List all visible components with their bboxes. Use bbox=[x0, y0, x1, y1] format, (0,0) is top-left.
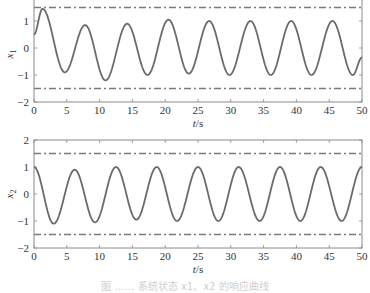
plot-x2: 05101520253035404550−2−1012t/sx2 bbox=[3, 134, 368, 275]
x-tick-label: 35 bbox=[258, 104, 270, 116]
x-axis-label: t/s bbox=[193, 117, 203, 129]
y-tick-label: −2 bbox=[17, 96, 29, 108]
y-axis-label: x2 bbox=[3, 190, 18, 200]
x-tick-label: 10 bbox=[94, 104, 106, 116]
x-tick-label: 0 bbox=[31, 104, 37, 116]
y-tick-label: −1 bbox=[17, 215, 29, 227]
plot-x1: 05101520253035404550−2−101t/sx1 bbox=[3, 0, 368, 129]
x-tick-label: 40 bbox=[291, 104, 303, 116]
x-tick-label: 30 bbox=[225, 250, 237, 262]
x2-curve bbox=[34, 167, 362, 224]
y-tick-label: 1 bbox=[24, 15, 30, 27]
x-tick-label: 35 bbox=[258, 250, 270, 262]
x-tick-label: 10 bbox=[94, 250, 106, 262]
x-tick-label: 40 bbox=[291, 250, 303, 262]
y-tick-label: 2 bbox=[24, 134, 30, 146]
y-tick-label: 0 bbox=[24, 188, 30, 200]
x-tick-label: 20 bbox=[160, 250, 172, 262]
x-axis-label: t/s bbox=[193, 263, 203, 275]
y-tick-label: 1 bbox=[24, 161, 30, 173]
x-tick-label: 5 bbox=[64, 250, 70, 262]
y-tick-label: 0 bbox=[24, 42, 30, 54]
x-tick-label: 15 bbox=[127, 250, 139, 262]
x-tick-label: 50 bbox=[357, 250, 369, 262]
x-tick-label: 30 bbox=[225, 104, 237, 116]
x-tick-label: 50 bbox=[357, 104, 369, 116]
figure-caption: 图 …… 系统状态 x1、x2 的响应曲线 bbox=[0, 278, 370, 293]
axes-box bbox=[34, 140, 362, 248]
x-tick-label: 20 bbox=[160, 104, 172, 116]
x-tick-label: 25 bbox=[193, 104, 205, 116]
y-tick-label: −2 bbox=[17, 242, 29, 254]
x-tick-label: 25 bbox=[193, 250, 205, 262]
x-tick-label: 45 bbox=[324, 250, 336, 262]
y-axis-label: x1 bbox=[3, 50, 18, 60]
y-tick-label: −1 bbox=[17, 69, 29, 81]
x-tick-label: 0 bbox=[31, 250, 37, 262]
x1-curve bbox=[34, 9, 362, 81]
x-tick-label: 15 bbox=[127, 104, 139, 116]
x-tick-label: 5 bbox=[64, 104, 70, 116]
x-tick-label: 45 bbox=[324, 104, 336, 116]
